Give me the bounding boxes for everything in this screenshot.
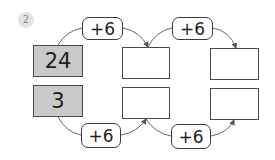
worksheet-exercise: 2 24 +6 +6 3 +6 +6 [0, 0, 275, 160]
operator-top-1: +6 [82, 17, 123, 40]
arrow-bottom-1b [121, 119, 146, 135]
answer-box-top-2[interactable] [210, 48, 259, 80]
arrow-top-2 [148, 28, 172, 47]
answer-box-top-1[interactable] [122, 47, 170, 79]
operator-top-2: +6 [172, 17, 213, 40]
operator-bottom-1: +6 [81, 123, 121, 148]
arrow-bottom-2b [211, 120, 234, 136]
arrow-top-1b [123, 28, 148, 47]
answer-box-bottom-2[interactable] [210, 88, 259, 120]
answer-box-bottom-1[interactable] [122, 87, 170, 119]
start-box-bottom: 3 [33, 85, 83, 117]
arrow-bottom-2 [146, 119, 171, 136]
arrow-top-2b [213, 28, 236, 48]
connector-arrows [0, 0, 275, 160]
arrow-top-1 [58, 28, 82, 45]
operator-bottom-2: +6 [171, 124, 211, 149]
start-box-top: 24 [33, 45, 83, 77]
arrow-bottom-1 [58, 117, 81, 135]
problem-number: 2 [18, 12, 34, 28]
